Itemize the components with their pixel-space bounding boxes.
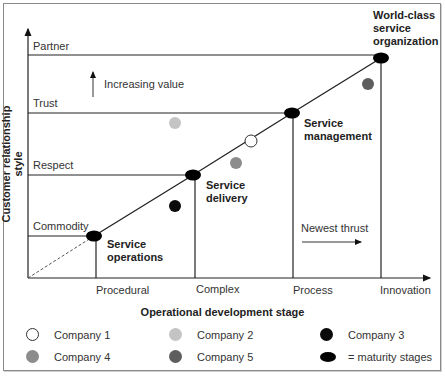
company-4-marker bbox=[230, 157, 242, 169]
x-tick-complex: Complex bbox=[196, 283, 239, 295]
light-gray-circle-icon bbox=[169, 328, 182, 341]
level-respect: Respect bbox=[33, 159, 73, 171]
company-5-marker bbox=[362, 78, 374, 90]
x-axis-label: Operational development stage bbox=[0, 306, 445, 318]
maturity-stage-marker bbox=[86, 231, 102, 242]
company-3-marker bbox=[169, 200, 181, 212]
level-commodity: Commodity bbox=[33, 220, 89, 232]
maturity-stage-marker bbox=[185, 170, 201, 181]
stage-world-class: World-class service organization bbox=[373, 9, 438, 48]
legend-company-2: Company 2 bbox=[169, 328, 253, 341]
maturity-stage-marker bbox=[373, 53, 389, 64]
company-1-marker bbox=[245, 135, 257, 147]
y-axis-label: Customer relationship style bbox=[0, 94, 24, 234]
legend-maturity-stages: = maturity stages bbox=[320, 351, 432, 363]
legend-company-5: Company 5 bbox=[169, 350, 253, 363]
black-ellipse-icon bbox=[320, 352, 336, 362]
dark-gray-circle-icon bbox=[169, 350, 182, 363]
stage-service-delivery: Service delivery bbox=[206, 179, 248, 205]
level-partner: Partner bbox=[33, 40, 69, 52]
x-tick-procedural: Procedural bbox=[96, 284, 149, 296]
maturity-stage-marker bbox=[284, 108, 300, 119]
stage-service-management: Service management bbox=[304, 117, 372, 143]
newest-thrust-label: Newest thrust bbox=[301, 222, 368, 234]
legend-company-4: Company 4 bbox=[26, 350, 110, 363]
x-tick-process: Process bbox=[293, 284, 333, 296]
level-trust: Trust bbox=[33, 97, 58, 109]
black-circle-icon bbox=[320, 328, 333, 341]
gray-circle-icon bbox=[26, 350, 39, 363]
stage-service-operations: Service operations bbox=[107, 238, 163, 264]
legend-company-3: Company 3 bbox=[320, 328, 404, 341]
increasing-value-label: Increasing value bbox=[104, 78, 184, 90]
legend-company-1: Company 1 bbox=[26, 328, 110, 341]
company-2-marker bbox=[169, 117, 181, 129]
x-tick-innovation: Innovation bbox=[380, 284, 431, 296]
hollow-circle-icon bbox=[26, 328, 39, 341]
